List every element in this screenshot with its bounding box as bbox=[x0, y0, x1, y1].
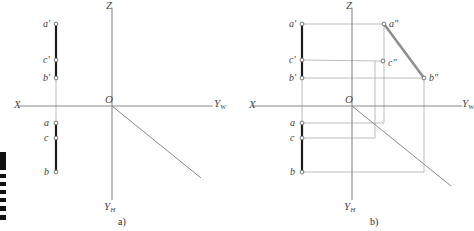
panel-b-label-c: c bbox=[290, 133, 294, 143]
caption-a: a) bbox=[118, 217, 126, 227]
edge-scan-mark-3 bbox=[0, 182, 6, 186]
panel-a-label-a: a bbox=[44, 118, 49, 128]
panel-a-yh-axis-label: YH bbox=[104, 201, 115, 214]
panel-b-projection-line-c-prime-to-c-double bbox=[302, 60, 383, 61]
panel-a-yw-axis-label: YW bbox=[214, 98, 226, 111]
edge-scan-mark-6 bbox=[0, 206, 6, 211]
panel-b-point-c-double-prime bbox=[381, 59, 385, 63]
panel-a-label-c-prime: c' bbox=[43, 55, 50, 65]
panel-b-point-a-double-prime bbox=[382, 22, 386, 26]
panel-b-label-b-double-prime: b" bbox=[429, 73, 438, 83]
panel-a-label-b: b bbox=[44, 167, 49, 177]
edge-scan-mark-4 bbox=[0, 190, 6, 194]
panel-b-point-b-prime bbox=[300, 76, 304, 80]
panel-b-x-axis-label: X bbox=[249, 99, 256, 110]
panel-a-z-axis-label: Z bbox=[106, 0, 112, 11]
panel-b-bisector-line bbox=[352, 106, 451, 186]
panel-b-label-a: a bbox=[290, 118, 295, 128]
panel-b-point-c bbox=[300, 136, 304, 140]
edge-scan-mark-1 bbox=[0, 152, 6, 170]
edge-scan-mark-2 bbox=[0, 174, 6, 178]
panel-b-origin-label: O bbox=[345, 94, 353, 105]
panel-b-yw-subscript: W bbox=[468, 103, 474, 111]
panel-b-yh-axis-label: YH bbox=[344, 201, 355, 214]
panel-a-label-a-prime: a' bbox=[43, 19, 50, 29]
panel-b-label-b-prime: b' bbox=[289, 73, 296, 83]
panel-a-point-c bbox=[54, 136, 58, 140]
edge-scan-mark-7 bbox=[0, 215, 6, 220]
edge-scan-mark-5 bbox=[0, 198, 6, 202]
panel-b-label-c-double-prime: c" bbox=[388, 58, 397, 68]
panel-a-yh-subscript: H bbox=[110, 206, 115, 214]
panel-b-segment-side-projection-ab bbox=[384, 24, 424, 78]
panel-a-point-b-prime bbox=[54, 76, 58, 80]
panel-b-label-b: b bbox=[290, 167, 295, 177]
panel-b-yh-subscript: H bbox=[350, 206, 355, 214]
panel-a-point-a bbox=[54, 121, 58, 125]
panel-b-label-a-double-prime: a" bbox=[389, 19, 398, 29]
panel-a-point-a-prime bbox=[54, 22, 58, 26]
panel-b-point-b bbox=[300, 170, 304, 174]
panel-b-point-a bbox=[300, 121, 304, 125]
panel-a-label-c: c bbox=[44, 133, 48, 143]
panel-a-x-axis-label: X bbox=[14, 99, 21, 110]
panel-b-point-b-double-prime bbox=[422, 76, 426, 80]
panel-b-z-axis-label: Z bbox=[346, 0, 352, 11]
panel-a-yw-subscript: W bbox=[220, 103, 226, 111]
caption-b: b) bbox=[370, 217, 378, 227]
panel-a-point-c-prime bbox=[54, 58, 58, 62]
panel-b-label-c-prime: c' bbox=[289, 55, 296, 65]
panel-b-yw-axis-label: YW bbox=[462, 98, 474, 111]
panel-a-label-b-prime: b' bbox=[43, 73, 50, 83]
panel-b-label-a-prime: a' bbox=[289, 19, 296, 29]
panel-a-bisector-line bbox=[112, 106, 201, 178]
panel-b-point-a-prime bbox=[300, 22, 304, 26]
panel-a-point-b bbox=[54, 170, 58, 174]
panel-a-origin-label: O bbox=[105, 94, 113, 105]
panel-b-point-c-prime bbox=[300, 58, 304, 62]
